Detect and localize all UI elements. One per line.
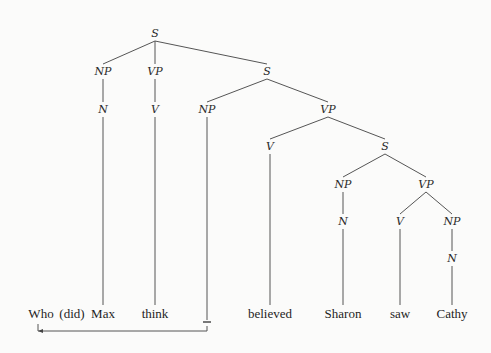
node-n: N <box>446 252 457 265</box>
node-np: NP <box>93 65 112 78</box>
tree-edge <box>267 79 328 102</box>
tree-canvas: SNPVPSNVNPVPVSNPVPNVNPN Who(did)Maxthink… <box>0 0 491 353</box>
word-saw: saw <box>390 306 411 321</box>
word-believed: believed <box>248 306 293 321</box>
tree-edge <box>343 154 385 177</box>
tree-edge <box>426 192 452 214</box>
tree-edge <box>270 117 328 139</box>
tree-edge <box>103 41 155 64</box>
node-n: N <box>337 215 348 228</box>
node-np: NP <box>197 103 216 116</box>
node-np: NP <box>442 215 461 228</box>
node-v: V <box>266 140 275 153</box>
arrow-line <box>38 324 207 331</box>
tree-edge <box>328 117 385 139</box>
node-np: NP <box>333 178 352 191</box>
node-vp: VP <box>418 178 434 191</box>
node-s: S <box>263 65 271 78</box>
node-v: V <box>396 215 405 228</box>
syntax-tree-diagram: SNPVPSNVNPVPVSNPVPNVNPN Who(did)Maxthink… <box>0 0 491 353</box>
node-n: N <box>97 103 108 116</box>
tree-edge <box>385 154 426 177</box>
tree-edges <box>103 41 452 320</box>
word-who: Who <box>28 306 53 321</box>
word-did: (did) <box>59 306 84 321</box>
node-s: S <box>381 140 389 153</box>
movement-arrow <box>38 324 207 333</box>
arrowhead-icon <box>38 329 43 333</box>
terminal-words: Who(did)MaxthinkbelievedSharonsawCathy <box>28 306 468 322</box>
word-cathy: Cathy <box>436 306 468 321</box>
word-sharon: Sharon <box>325 306 362 321</box>
word-max: Max <box>91 306 115 321</box>
node-v: V <box>151 103 160 116</box>
tree-edge <box>155 41 267 64</box>
node-s: S <box>151 27 159 40</box>
node-vp: VP <box>147 65 163 78</box>
node-vp: VP <box>320 103 336 116</box>
tree-edge <box>400 192 426 214</box>
tree-nodes: SNPVPSNVNPVPVSNPVPNVNPN <box>93 27 461 265</box>
tree-edge <box>207 79 267 102</box>
word-think: think <box>142 306 169 321</box>
